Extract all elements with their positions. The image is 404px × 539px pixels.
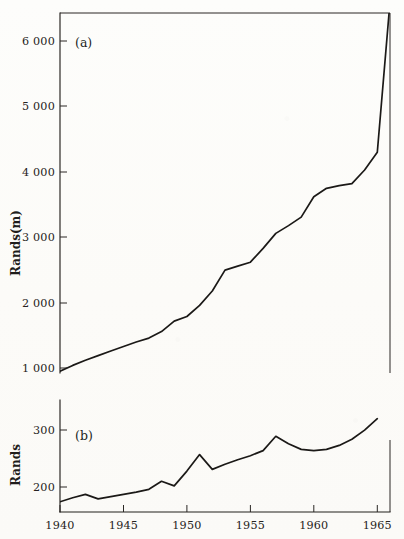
panel-a-data-line xyxy=(60,2,390,371)
panel-a-tag: (a) xyxy=(75,35,92,50)
xtick-label-1955: 1955 xyxy=(236,519,265,532)
panel-a-frame xyxy=(60,13,390,373)
ytick-label-b-200: 200 xyxy=(33,481,55,494)
ytick-label-a-2000: 2 000 xyxy=(22,297,55,310)
xtick-label-1950: 1950 xyxy=(172,519,201,532)
ytick-label-a-5000: 5 000 xyxy=(22,100,55,113)
xtick-label-1940: 1940 xyxy=(45,519,74,532)
ytick-label-a-6000: 6 000 xyxy=(22,35,55,48)
xaxis-ticks xyxy=(60,505,377,512)
panel-b-frame xyxy=(60,400,390,512)
xtick-label-1945: 1945 xyxy=(109,519,138,532)
ytick-label-b-300: 300 xyxy=(33,424,55,437)
panel-b-data-line xyxy=(60,419,377,502)
panel-b-yticks xyxy=(60,430,67,487)
panel-a-ylabel: Rands(m) xyxy=(9,210,23,276)
ytick-label-a-4000: 4 000 xyxy=(22,166,55,179)
panel-b-tag: (b) xyxy=(75,428,93,443)
panel-b-ylabel: Rands xyxy=(9,444,23,486)
panel-a-yticks xyxy=(60,41,67,368)
ytick-label-a-3000: 3 000 xyxy=(22,231,55,244)
figure-page: 6 000 5 000 4 000 3 000 2 000 1 000 Rand… xyxy=(0,0,404,539)
xtick-label-1965: 1965 xyxy=(363,519,392,532)
ytick-label-a-1000: 1 000 xyxy=(22,362,55,375)
two-panel-line-chart: 6 000 5 000 4 000 3 000 2 000 1 000 Rand… xyxy=(0,0,404,539)
xtick-label-1960: 1960 xyxy=(299,519,328,532)
